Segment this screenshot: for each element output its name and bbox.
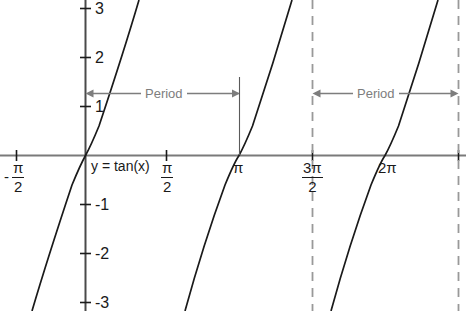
period-label-1: Period: [141, 87, 187, 100]
fraction-numerator: π: [159, 160, 175, 176]
x-axis-label-2pi: 2π: [378, 160, 397, 175]
function-label: y = tan(x): [91, 159, 150, 173]
period-2-arrowhead-left: [313, 90, 321, 98]
minus-sign: -: [4, 169, 9, 185]
fraction-numerator: π: [10, 160, 26, 176]
period-1-arrowhead-left: [86, 90, 94, 98]
period-2-arrowhead-right: [451, 90, 459, 98]
x-axis-label-minus-pi-over-2: - π 2: [4, 160, 26, 195]
fraction-denominator: 2: [10, 179, 26, 195]
y-axis-label-3: 3: [95, 1, 104, 17]
y-axis-label-minus-3: -3: [95, 295, 109, 311]
y-axis-label-1: 1: [95, 99, 104, 115]
tangent-function-graph: 3 2 1 -1 -2 -3 - π 2 π 2 π 3π 2 2π y = t…: [0, 0, 466, 311]
fraction-numerator: 3π: [300, 160, 325, 176]
y-axis-label-2: 2: [95, 50, 104, 66]
x-axis-label-3pi-over-2: 3π 2: [300, 160, 325, 195]
fraction-denominator: 2: [159, 179, 175, 195]
plot-canvas: [0, 0, 466, 311]
fraction-stack: π 2: [10, 160, 26, 195]
y-axis-label-minus-1: -1: [95, 197, 109, 213]
x-axis-label-pi-over-2: π 2: [159, 160, 175, 195]
x-axis-label-pi: π: [233, 160, 243, 175]
period-1-arrowhead-right: [232, 90, 240, 98]
period-label-2: Period: [353, 87, 399, 100]
fraction-denominator: 2: [300, 179, 325, 195]
y-axis-label-minus-2: -2: [95, 246, 109, 262]
